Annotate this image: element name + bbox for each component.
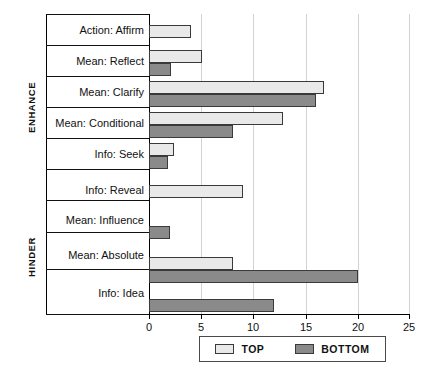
category-label-mean-clarify: Mean: Clarify	[46, 87, 144, 98]
category-label-mean-absolute: Mean: Absolute	[46, 250, 144, 261]
gridline-15	[306, 14, 307, 314]
bar-bottom-mean-reflect	[149, 63, 171, 76]
legend-swatch-top-icon	[215, 344, 234, 354]
x-tick-label-15: 15	[291, 321, 321, 333]
x-tick-mark-5	[201, 314, 202, 319]
x-tick-label-10: 10	[238, 321, 268, 333]
category-label-info-idea: Info: Idea	[46, 288, 144, 299]
row-separator	[46, 45, 149, 46]
x-tick-mark-0	[149, 314, 150, 319]
category-label-mean-conditional: Mean: Conditional	[46, 118, 144, 129]
x-tick-mark-25	[409, 314, 410, 319]
row-separator	[46, 232, 149, 233]
x-tick-label-20: 20	[343, 321, 373, 333]
bar-top-mean-clarify	[149, 81, 324, 94]
group-label-hinder: HINDER	[26, 200, 37, 314]
gridline-25	[409, 14, 410, 314]
row-separator	[46, 107, 149, 108]
bar-top-action-affirm	[149, 25, 191, 38]
gridline-20	[358, 14, 359, 314]
bar-top-mean-absolute	[149, 257, 233, 270]
x-tick-label-25: 25	[394, 321, 424, 333]
bar-chart: ENHANCE HINDER Action: Affirm Mean: Refl…	[0, 0, 427, 379]
legend-swatch-bottom-icon	[295, 344, 314, 354]
row-separator	[46, 269, 149, 270]
legend-label-bottom: BOTTOM	[321, 343, 369, 355]
category-label-mean-influence: Mean: Influence	[46, 215, 144, 226]
row-separator	[46, 200, 149, 201]
bar-bottom-info-idea	[149, 299, 274, 312]
x-tick-mark-20	[358, 314, 359, 319]
category-label-info-seek: Info: Seek	[46, 149, 144, 160]
x-tick-mark-15	[306, 314, 307, 319]
row-separator	[46, 169, 149, 170]
row-separator	[46, 138, 149, 139]
bar-bottom-mean-influence	[149, 226, 170, 239]
gridline-10	[253, 14, 254, 314]
x-tick-label-0: 0	[134, 321, 164, 333]
bar-bottom-info-seek	[149, 156, 168, 169]
row-separator	[46, 314, 149, 315]
category-label-mean-reflect: Mean: Reflect	[46, 56, 144, 67]
category-label-info-reveal: Info: Reveal	[46, 185, 144, 196]
legend-entry-bottom: BOTTOM	[295, 343, 369, 355]
x-tick-mark-10	[253, 314, 254, 319]
chart-legend: TOP BOTTOM	[199, 336, 386, 362]
bar-top-info-reveal	[149, 185, 243, 198]
category-label-action-affirm: Action: Affirm	[46, 25, 144, 36]
bar-bottom-mean-absolute	[149, 270, 358, 283]
row-separator	[46, 76, 149, 77]
row-separator	[46, 14, 149, 15]
legend-entry-top: TOP	[215, 343, 264, 355]
bar-top-mean-reflect	[149, 50, 202, 63]
bar-bottom-mean-clarify	[149, 94, 316, 107]
bar-top-info-seek	[149, 143, 174, 156]
x-tick-label-5: 5	[186, 321, 216, 333]
bar-bottom-mean-conditional	[149, 125, 233, 138]
group-label-enhance: ENHANCE	[26, 14, 37, 200]
bar-top-mean-conditional	[149, 112, 283, 125]
plot-area: 0 5 10 15 20 25	[149, 14, 410, 314]
x-axis-line	[149, 314, 410, 315]
legend-label-top: TOP	[241, 343, 264, 355]
